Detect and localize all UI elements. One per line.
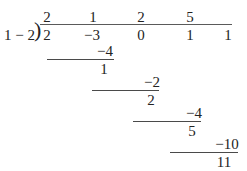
dividend-digit: 1 bbox=[224, 28, 232, 43]
dividend-digit: −3 bbox=[84, 28, 100, 43]
long-division-figure: 1 − 2 ) 2 1 2 5 2 −3 0 1 1 −4 1 −2 2 −4 … bbox=[0, 0, 247, 171]
step-remainder: 5 bbox=[188, 124, 196, 139]
step-remainder: 2 bbox=[147, 93, 155, 108]
step-subtrahend: −2 bbox=[144, 75, 160, 90]
dividend-digit: 2 bbox=[43, 28, 51, 43]
dividend-digit: 1 bbox=[186, 28, 194, 43]
quotient-digit: 2 bbox=[43, 10, 51, 25]
quotient-digit: 1 bbox=[89, 10, 97, 25]
quotient-digit: 5 bbox=[186, 10, 194, 25]
final-remainder: 11 bbox=[217, 155, 231, 170]
step-rule bbox=[92, 90, 159, 91]
step-rule bbox=[47, 59, 114, 60]
step-subtrahend: −4 bbox=[97, 44, 113, 59]
quotient-digit: 2 bbox=[137, 10, 145, 25]
dividend-digit: 0 bbox=[137, 28, 145, 43]
divisor-expression: 1 − 2 bbox=[4, 28, 35, 43]
step-remainder: 1 bbox=[100, 62, 108, 77]
division-vinculum bbox=[40, 24, 232, 25]
step-subtrahend: −10 bbox=[215, 137, 238, 152]
step-subtrahend: −4 bbox=[186, 106, 202, 121]
step-rule bbox=[133, 121, 201, 122]
step-rule bbox=[170, 152, 238, 153]
